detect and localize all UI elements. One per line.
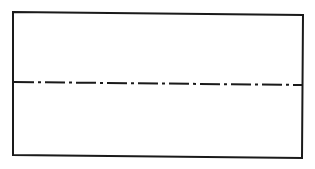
center-line-dash-dot <box>14 82 302 85</box>
drawing-canvas <box>0 0 315 169</box>
rectangle-outline <box>13 12 303 158</box>
